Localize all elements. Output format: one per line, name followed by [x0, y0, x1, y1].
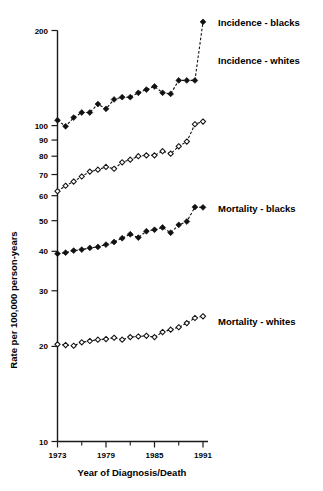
chart-background — [0, 0, 323, 491]
y-tick-label: 70 — [39, 171, 48, 180]
y-tick-label: 200 — [35, 27, 49, 36]
y-tick-label: 80 — [39, 152, 48, 161]
y-tick-label: 90 — [39, 136, 48, 145]
series-label-mortality-whites: Mortality - whites — [218, 316, 296, 327]
y-tick-label: 100 — [35, 122, 49, 131]
y-tick-label: 60 — [39, 192, 48, 201]
y-tick-label: 50 — [39, 217, 48, 226]
x-tick-label: 1979 — [97, 451, 115, 460]
series-label-incidence-blacks: Incidence - blacks — [218, 17, 300, 28]
series-label-mortality-blacks: Mortality - blacks — [218, 203, 296, 214]
y-tick-label: 40 — [39, 247, 48, 256]
y-tick-label: 30 — [39, 287, 48, 296]
chart-figure: 102030405060708090100200 197319791985199… — [0, 0, 323, 491]
y-axis-title: Rate per 100,000 person-years — [8, 231, 19, 368]
series-label-incidence-whites: Incidence - whites — [218, 55, 300, 66]
x-tick-label: 1985 — [146, 451, 164, 460]
x-tick-label: 1991 — [194, 451, 212, 460]
x-tick-label: 1973 — [49, 451, 67, 460]
incidence-mortality-line-chart: 102030405060708090100200 197319791985199… — [0, 0, 323, 491]
y-tick-label: 10 — [39, 438, 48, 447]
x-axis-title: Year of Diagnosis/Death — [78, 467, 187, 478]
y-tick-label: 20 — [39, 342, 48, 351]
